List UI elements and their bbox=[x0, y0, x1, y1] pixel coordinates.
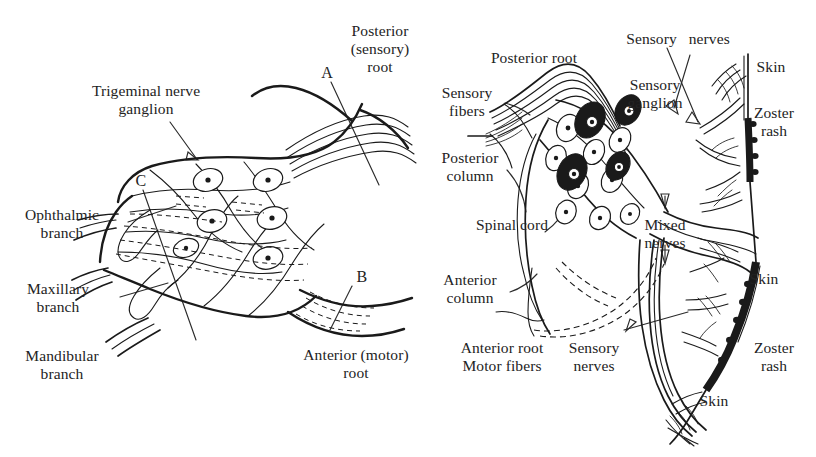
skin-line-middle bbox=[750, 182, 756, 262]
label-skin-bottom: Skin bbox=[700, 392, 729, 410]
right-panel-spinal-group bbox=[468, 48, 760, 446]
label-posterior-root: Posterior root bbox=[491, 49, 577, 67]
anatomical-figure: .s { fill:none; stroke:#1a1a1a; stroke-w… bbox=[0, 0, 816, 457]
skin-nerve-endings-middle bbox=[698, 172, 742, 262]
label-spinal-cord: Spinal cord bbox=[476, 216, 548, 234]
label-anterior-column: Anteriorcolumn bbox=[443, 271, 496, 307]
label-marker-b: B bbox=[357, 268, 368, 287]
label-sensory-fibers: Sensoryfibers bbox=[442, 84, 493, 120]
label-trigeminal-nerve-ganglion: Trigeminal nerveganglion bbox=[92, 82, 200, 118]
trigeminal-ganglion-outline bbox=[118, 104, 362, 202]
skin-nerve-endings-upper bbox=[696, 64, 746, 166]
label-mixed-nerves: Mixednerves bbox=[644, 216, 685, 252]
label-anterior-motor-root: Anterior (motor)root bbox=[303, 346, 408, 382]
label-sensory-nerves-bottom: Sensorynerves bbox=[569, 339, 620, 375]
zoster-rash-band-upper bbox=[748, 118, 750, 182]
posterior-root-bundle bbox=[490, 64, 628, 158]
mandibular-branch-group bbox=[106, 318, 160, 356]
trigeminal-ganglion-cells bbox=[171, 165, 290, 272]
label-zoster-rash-top: Zosterrash bbox=[754, 104, 794, 140]
label-skin-middle: Skin bbox=[750, 270, 779, 288]
label-zoster-rash-bottom: Zosterrash bbox=[754, 339, 794, 375]
label-ophthalmic-branch: Ophthalmicbranch bbox=[25, 206, 99, 242]
left-panel-trigeminal-group bbox=[72, 82, 416, 356]
label-mandibular-branch: Mandibularbranch bbox=[25, 347, 98, 383]
anterior-motor-root-group bbox=[288, 290, 412, 336]
label-anterior-root-motor-fibers: Anterior rootMotor fibers bbox=[461, 339, 544, 375]
label-maxillary-branch: Maxillarybranch bbox=[27, 280, 89, 316]
label-marker-a: A bbox=[321, 64, 333, 83]
label-sensory-nerves-top: Sensory nerves bbox=[626, 30, 730, 48]
label-sensory-ganglion: Sensoryganglion bbox=[627, 76, 682, 112]
skin-nerve-endings-lower bbox=[682, 258, 728, 356]
label-posterior-sensory-root: Posterior(sensory)root bbox=[351, 22, 410, 76]
label-marker-c: C bbox=[136, 172, 147, 191]
label-posterior-column: Posteriorcolumn bbox=[442, 149, 499, 185]
label-skin-top: Skin bbox=[757, 58, 786, 76]
posterior-sensory-root-main bbox=[252, 86, 352, 121]
